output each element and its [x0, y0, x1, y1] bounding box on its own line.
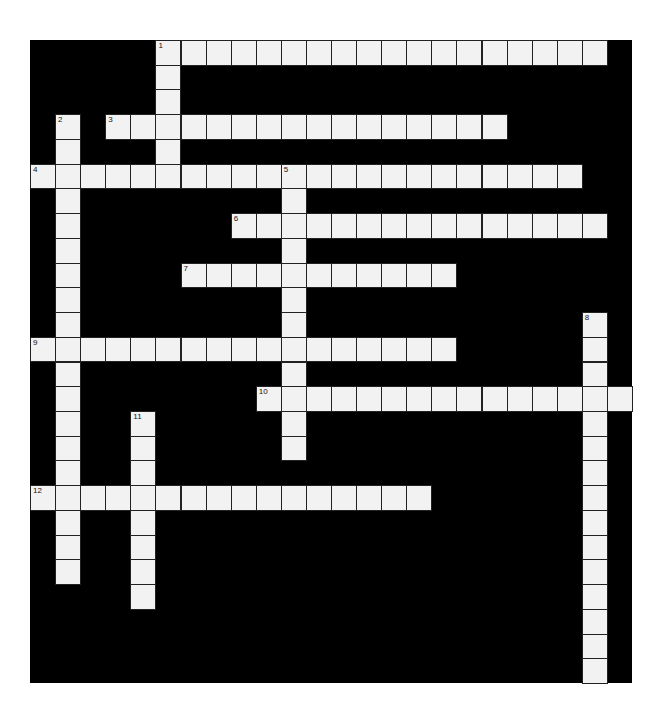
grid-cell[interactable]	[130, 510, 156, 536]
grid-cell[interactable]	[105, 485, 131, 511]
grid-cell[interactable]	[507, 40, 533, 66]
grid-cell[interactable]	[281, 436, 307, 462]
grid-cell[interactable]	[356, 337, 382, 363]
grid-cell[interactable]: 11	[130, 411, 156, 437]
grid-cell[interactable]	[130, 535, 156, 561]
grid-cell[interactable]	[55, 411, 81, 437]
grid-cell[interactable]	[331, 40, 357, 66]
grid-cell[interactable]	[431, 263, 457, 289]
grid-cell[interactable]	[381, 337, 407, 363]
grid-cell[interactable]	[582, 510, 608, 536]
grid-cell[interactable]	[256, 40, 282, 66]
grid-cell[interactable]	[456, 114, 482, 140]
grid-cell[interactable]	[381, 386, 407, 412]
grid-cell[interactable]	[231, 337, 257, 363]
grid-cell[interactable]	[130, 337, 156, 363]
grid-cell[interactable]	[406, 164, 432, 190]
grid-cell[interactable]	[431, 164, 457, 190]
grid-cell[interactable]	[532, 386, 558, 412]
grid-cell[interactable]	[532, 40, 558, 66]
grid-cell[interactable]	[231, 263, 257, 289]
grid-cell[interactable]	[431, 337, 457, 363]
grid-cell[interactable]	[256, 485, 282, 511]
grid-cell[interactable]	[155, 89, 181, 115]
grid-cell[interactable]	[55, 510, 81, 536]
grid-cell[interactable]	[155, 114, 181, 140]
grid-cell[interactable]	[306, 386, 332, 412]
grid-cell[interactable]	[406, 337, 432, 363]
grid-cell[interactable]	[582, 609, 608, 635]
grid-cell[interactable]	[557, 213, 583, 239]
grid-cell[interactable]	[582, 485, 608, 511]
grid-cell[interactable]: 8	[582, 312, 608, 338]
grid-cell[interactable]	[306, 263, 332, 289]
grid-cell[interactable]	[431, 40, 457, 66]
grid-cell[interactable]	[431, 114, 457, 140]
grid-cell[interactable]: 9	[30, 337, 56, 363]
grid-cell[interactable]	[331, 213, 357, 239]
grid-cell[interactable]	[356, 485, 382, 511]
grid-cell[interactable]	[306, 164, 332, 190]
grid-cell[interactable]	[206, 114, 232, 140]
grid-cell[interactable]	[55, 164, 81, 190]
grid-cell[interactable]	[55, 362, 81, 388]
grid-cell[interactable]	[456, 40, 482, 66]
grid-cell[interactable]	[231, 114, 257, 140]
grid-cell[interactable]	[206, 485, 232, 511]
grid-cell[interactable]	[306, 40, 332, 66]
grid-cell[interactable]	[55, 312, 81, 338]
grid-cell[interactable]	[406, 485, 432, 511]
grid-cell[interactable]	[55, 559, 81, 585]
grid-cell[interactable]	[281, 40, 307, 66]
grid-cell[interactable]	[206, 40, 232, 66]
grid-cell[interactable]	[105, 164, 131, 190]
grid-cell[interactable]	[406, 40, 432, 66]
grid-cell[interactable]	[281, 485, 307, 511]
grid-cell[interactable]	[406, 114, 432, 140]
grid-cell[interactable]	[231, 40, 257, 66]
grid-cell[interactable]	[557, 386, 583, 412]
grid-cell[interactable]	[406, 386, 432, 412]
grid-cell[interactable]	[181, 40, 207, 66]
grid-cell[interactable]	[306, 114, 332, 140]
grid-cell[interactable]	[381, 485, 407, 511]
grid-cell[interactable]	[532, 164, 558, 190]
grid-cell[interactable]	[507, 213, 533, 239]
grid-cell[interactable]	[507, 386, 533, 412]
grid-cell[interactable]	[181, 485, 207, 511]
grid-cell[interactable]	[582, 634, 608, 660]
grid-cell[interactable]	[80, 337, 106, 363]
grid-cell[interactable]	[281, 287, 307, 313]
grid-cell[interactable]	[331, 114, 357, 140]
grid-cell[interactable]	[482, 386, 508, 412]
grid-cell[interactable]	[306, 337, 332, 363]
grid-cell[interactable]	[356, 263, 382, 289]
grid-cell[interactable]	[130, 559, 156, 585]
grid-cell[interactable]	[356, 114, 382, 140]
grid-cell[interactable]	[181, 337, 207, 363]
grid-cell[interactable]	[55, 337, 81, 363]
grid-cell[interactable]	[482, 40, 508, 66]
grid-cell[interactable]	[381, 114, 407, 140]
grid-cell[interactable]	[431, 213, 457, 239]
grid-cell[interactable]	[582, 337, 608, 363]
grid-cell[interactable]	[331, 386, 357, 412]
grid-cell[interactable]	[256, 213, 282, 239]
grid-cell[interactable]: 10	[256, 386, 282, 412]
grid-cell[interactable]	[456, 386, 482, 412]
grid-cell[interactable]	[582, 411, 608, 437]
grid-cell[interactable]	[105, 337, 131, 363]
grid-cell[interactable]	[281, 362, 307, 388]
grid-cell[interactable]	[206, 337, 232, 363]
grid-cell[interactable]	[55, 139, 81, 165]
grid-cell[interactable]	[281, 263, 307, 289]
grid-cell[interactable]: 1	[155, 40, 181, 66]
grid-cell[interactable]	[80, 485, 106, 511]
grid-cell[interactable]	[381, 40, 407, 66]
grid-cell[interactable]	[406, 213, 432, 239]
grid-cell[interactable]	[582, 460, 608, 486]
grid-cell[interactable]	[281, 386, 307, 412]
grid-cell[interactable]	[482, 164, 508, 190]
grid-cell[interactable]	[55, 287, 81, 313]
grid-cell[interactable]	[155, 337, 181, 363]
